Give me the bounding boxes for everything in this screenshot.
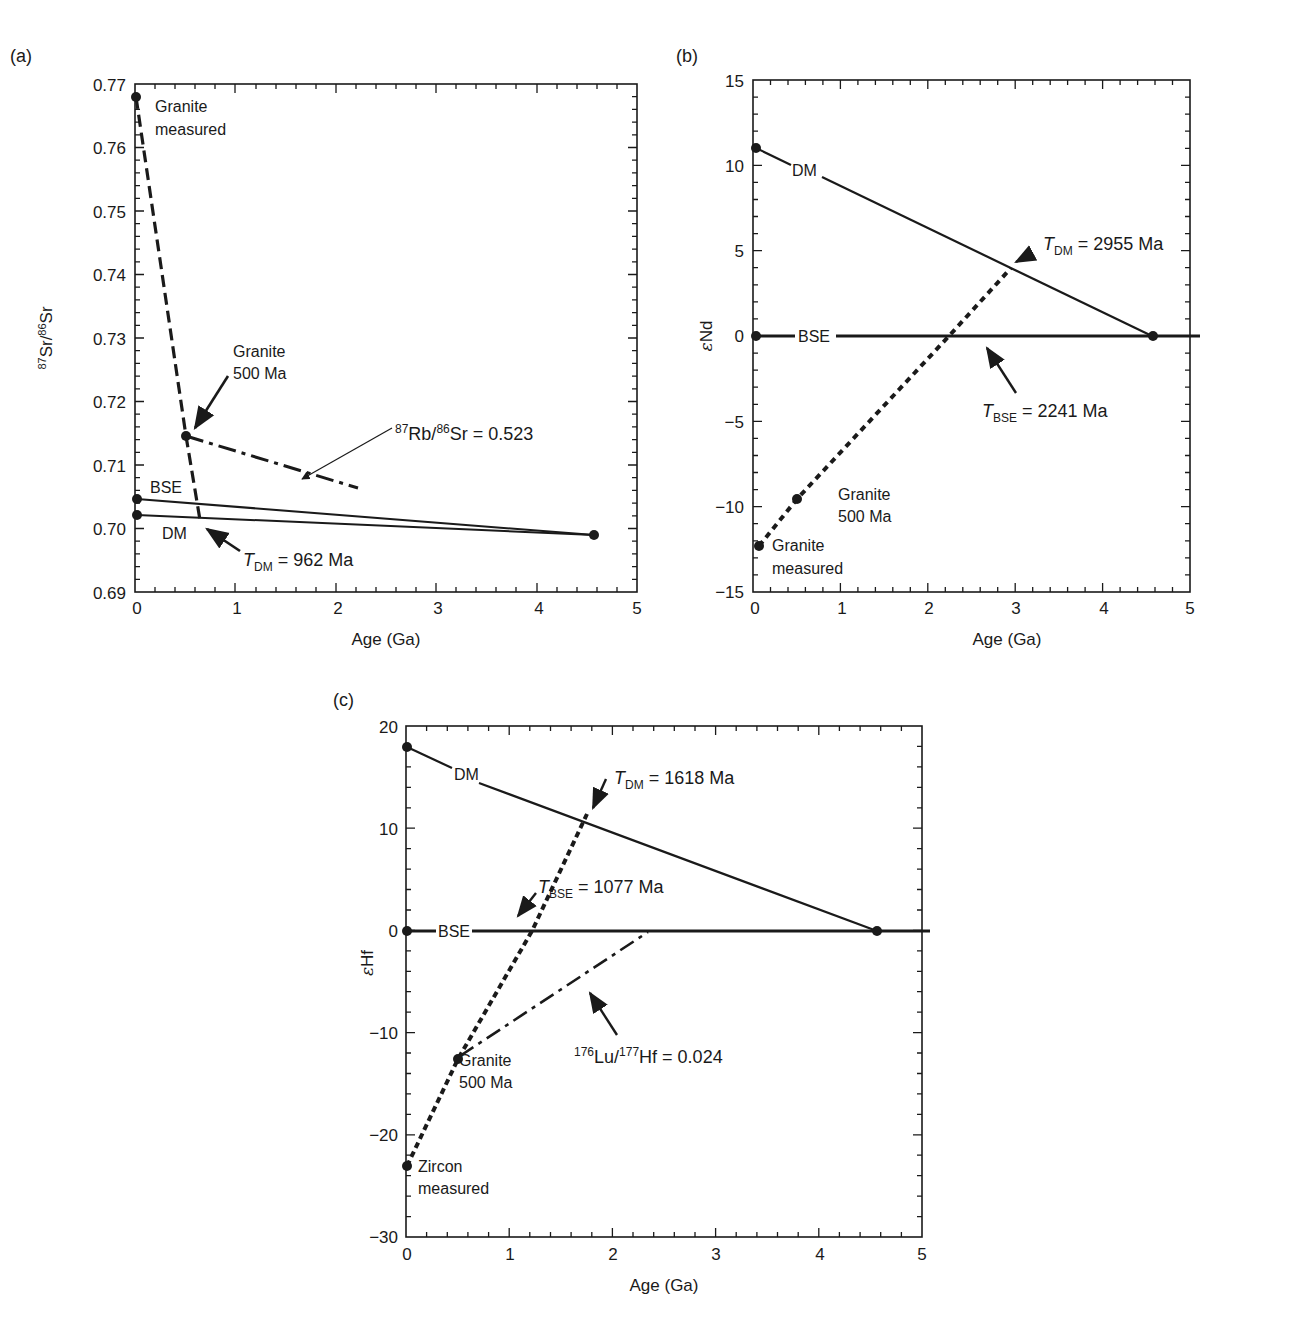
annotation: BSE <box>798 328 830 345</box>
y-tick-label: 0.73 <box>93 330 126 349</box>
marker <box>402 926 412 936</box>
x-ticks <box>427 726 902 1237</box>
y-axis-title: εHf <box>357 950 377 976</box>
x-tick-label: 3 <box>433 599 442 618</box>
annotation: Granite <box>772 537 825 554</box>
x-tick-label: 4 <box>815 1245 824 1264</box>
lu-hf-label: 176Lu/177Hf = 0.024 <box>574 1045 723 1067</box>
annotation: measured <box>418 1180 489 1197</box>
y-tick-label: −30 <box>369 1228 398 1247</box>
marker <box>751 143 761 153</box>
y-tick-labels: 0.77 0.76 0.75 0.74 0.73 0.72 0.71 0.70 … <box>93 76 126 603</box>
y-tick-label: 15 <box>725 72 744 91</box>
y-tick-label: 10 <box>725 157 744 176</box>
x-axis-title: Age (Ga) <box>973 630 1042 649</box>
y-tick-label: −10 <box>369 1024 398 1043</box>
x-tick-labels: 0 1 2 3 4 5 <box>132 599 641 618</box>
marker <box>402 742 412 752</box>
x-tick-label: 0 <box>132 599 141 618</box>
dm-line <box>479 783 877 931</box>
annotation: 500 Ma <box>459 1074 512 1091</box>
marker <box>792 494 802 504</box>
annotation: BSE <box>438 923 470 940</box>
x-tick-label: 5 <box>632 599 641 618</box>
annotations: DM BSE TDM = 1618 Ma TBSE = 1077 Ma 176L… <box>418 766 735 1197</box>
annotation: BSE <box>150 479 182 496</box>
annotations: Granite measured Granite 500 Ma BSE DM 8… <box>150 98 533 574</box>
arrow-icon <box>593 779 606 808</box>
y-tick-label: 0.70 <box>93 520 126 539</box>
dm-line <box>407 747 452 768</box>
markers <box>751 143 1158 551</box>
y-tick-label: 5 <box>735 242 744 261</box>
marker <box>131 92 141 102</box>
panel-c: (c) 20 10 0 −10 −20 −30 0 1 2 3 <box>333 690 930 1295</box>
y-tick-label: 0.75 <box>93 203 126 222</box>
tdm-label: TDM = 1618 Ma <box>614 768 735 792</box>
marker <box>1148 331 1158 341</box>
x-tick-label: 1 <box>232 599 241 618</box>
marker <box>132 494 142 504</box>
panel-a: (a) 0.77 0.76 0.75 0.74 0.73 0.72 0.71 0… <box>10 46 642 649</box>
y-tick-label: 0.76 <box>93 139 126 158</box>
x-axis-title: Age (Ga) <box>630 1276 699 1295</box>
y-axis-title: 87Sr/86Sr <box>36 306 56 370</box>
dm-line <box>822 177 1152 336</box>
y-tick-labels: 20 10 0 −10 −20 −30 <box>369 718 398 1247</box>
markers <box>402 742 882 1171</box>
dm-line <box>756 148 791 165</box>
x-tick-label: 3 <box>711 1245 720 1264</box>
annotation: Granite <box>838 486 891 503</box>
plot-frame <box>135 84 637 592</box>
x-tick-label: 0 <box>402 1245 411 1264</box>
y-tick-label: 0.74 <box>93 266 126 285</box>
x-tick-labels: 0 1 2 3 4 5 <box>750 599 1194 618</box>
arrow-icon <box>1016 253 1033 262</box>
panel-a-label: (a) <box>10 46 32 66</box>
marker <box>402 1161 412 1171</box>
panel-b: (b) 15 10 5 0 −5 −10 −15 0 1 2 <box>676 46 1200 649</box>
annotation: 500 Ma <box>233 365 286 382</box>
annotation: DM <box>162 525 187 542</box>
annotation: measured <box>772 560 843 577</box>
arrow-icon <box>207 529 240 551</box>
arrow-icon <box>590 993 617 1035</box>
annotation: Granite <box>233 343 286 360</box>
x-tick-label: 2 <box>608 1245 617 1264</box>
x-tick-label: 2 <box>924 599 933 618</box>
y-tick-label: −20 <box>369 1126 398 1145</box>
marker <box>754 541 764 551</box>
y-tick-label: 0.77 <box>93 76 126 95</box>
y-tick-label: 0 <box>735 327 744 346</box>
markers <box>131 92 599 540</box>
tdm-label: TDM = 2955 Ma <box>1043 234 1164 258</box>
arrow-icon <box>518 893 536 916</box>
x-tick-label: 0 <box>750 599 759 618</box>
annotation: DM <box>454 766 479 783</box>
y-tick-label: 0.71 <box>93 457 126 476</box>
y-tick-label: −10 <box>715 498 744 517</box>
x-tick-label: 5 <box>1185 599 1194 618</box>
annotation: Granite <box>155 98 208 115</box>
x-tick-label: 2 <box>333 599 342 618</box>
x-ticks <box>155 84 617 592</box>
y-tick-label: 20 <box>379 718 398 737</box>
granite-evolution-line <box>759 268 1011 546</box>
panel-b-label: (b) <box>676 46 698 66</box>
x-tick-label: 1 <box>837 599 846 618</box>
annotation: measured <box>155 121 226 138</box>
y-tick-label: 0.72 <box>93 393 126 412</box>
annotation: Granite <box>459 1052 512 1069</box>
x-axis-title: Age (Ga) <box>352 630 421 649</box>
annotations: DM BSE TDM = 2955 Ma TBSE = 2241 Ma Gran… <box>772 162 1164 577</box>
figure-canvas: (a) 0.77 0.76 0.75 0.74 0.73 0.72 0.71 0… <box>0 0 1292 1332</box>
marker <box>751 331 761 341</box>
arrow-icon <box>987 348 1016 393</box>
x-tick-labels: 0 1 2 3 4 5 <box>402 1245 926 1264</box>
y-ticks <box>406 746 922 1216</box>
tdm-label: TDM = 962 Ma <box>243 550 354 574</box>
x-tick-label: 4 <box>1099 599 1108 618</box>
y-tick-label: 0.69 <box>93 584 126 603</box>
tbse-label: TBSE = 2241 Ma <box>982 401 1109 425</box>
annotation: 500 Ma <box>838 508 891 525</box>
